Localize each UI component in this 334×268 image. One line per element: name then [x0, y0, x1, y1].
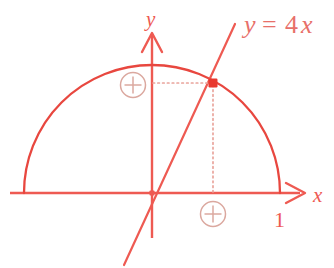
x-tick-one-label: 1: [274, 207, 285, 232]
origin-point-marker: [150, 191, 155, 196]
line-equation-label: y = 4 x: [241, 10, 313, 39]
figure-canvas: y x 1 y = 4 x: [0, 0, 334, 268]
y-axis-label: y: [144, 7, 156, 31]
plus-circle-upper-icon: [121, 73, 146, 98]
plus-circle-lower-icon: [201, 202, 226, 227]
intersection-point-marker: [209, 79, 218, 88]
equation-variable-x: x: [300, 10, 313, 39]
semicircle-line-diagram: y x 1 y = 4 x: [0, 0, 334, 268]
equation-equals-sign: =: [262, 10, 277, 39]
x-axis-label: x: [312, 183, 323, 207]
line-y-equals-4x: [124, 24, 235, 265]
equation-variable-y: y: [241, 10, 256, 39]
equation-coefficient-4: 4: [285, 10, 298, 39]
